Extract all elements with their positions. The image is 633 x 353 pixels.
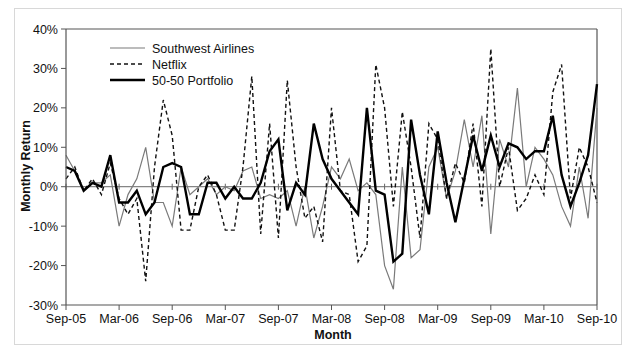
y-tick-label: -20%	[29, 259, 58, 273]
series-netflix	[66, 49, 597, 282]
x-axis: Sep-05Mar-06Sep-06Mar-07Sep-07Mar-08Sep-…	[46, 305, 617, 326]
legend-label: Southwest Airlines	[152, 42, 254, 56]
y-tick-label: -10%	[29, 220, 58, 234]
y-axis: -30%-20%-10%0%10%20%30%40%	[29, 23, 66, 313]
series-50-50-portfolio	[66, 84, 597, 261]
y-tick-label: 20%	[33, 101, 58, 115]
x-tick-label: Sep-10	[577, 312, 617, 326]
y-tick-label: 40%	[33, 23, 58, 37]
x-tick-label: Mar-06	[99, 312, 139, 326]
y-tick-label: -30%	[29, 299, 58, 313]
x-tick-label: Mar-10	[524, 312, 564, 326]
x-tick-label: Mar-07	[206, 312, 246, 326]
y-tick-label: 10%	[33, 141, 58, 155]
x-tick-label: Sep-05	[46, 312, 86, 326]
y-tick-label: 30%	[33, 62, 58, 76]
x-axis-title: Month	[314, 328, 351, 342]
y-axis-title: Monthly Return	[19, 120, 33, 212]
line-chart: -30%-20%-10%0%10%20%30%40% Sep-05Mar-06S…	[0, 0, 633, 353]
plot-area	[66, 29, 597, 305]
legend-label: Netflix	[152, 58, 187, 72]
x-tick-label: Sep-08	[364, 312, 404, 326]
legend-label: 50-50 Portfolio	[152, 74, 233, 88]
x-tick-label: Mar-09	[418, 312, 458, 326]
x-tick-label: Sep-06	[152, 312, 192, 326]
y-tick-label: 0%	[40, 180, 58, 194]
x-tick-label: Sep-09	[471, 312, 511, 326]
x-tick-label: Sep-07	[258, 312, 298, 326]
x-tick-label: Mar-08	[312, 312, 352, 326]
legend: Southwest AirlinesNetflix50-50 Portfolio	[110, 42, 254, 88]
